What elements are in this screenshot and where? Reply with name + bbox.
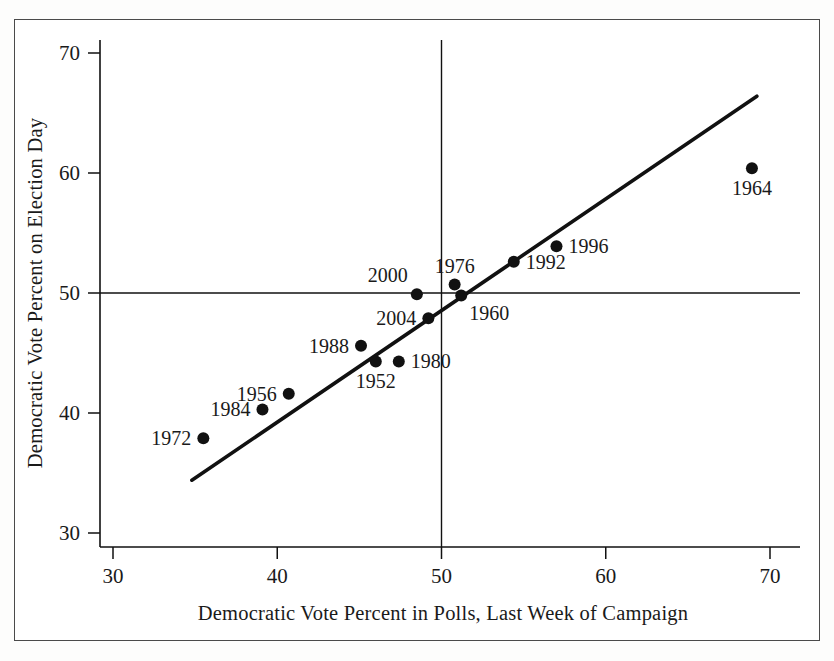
point-label-1976: 1976 [435, 255, 475, 277]
data-point-1952[interactable] [370, 355, 382, 367]
point-labels-group: 1972198419561988195219802000200419761960… [151, 177, 772, 449]
x-tick-label-50: 50 [431, 564, 452, 588]
data-point-1988[interactable] [355, 340, 367, 352]
y-tick-label-30: 30 [59, 521, 80, 545]
x-tick-label-30: 30 [103, 564, 124, 588]
data-point-1980[interactable] [393, 355, 405, 367]
x-tick-label-40: 40 [267, 564, 288, 588]
point-label-1952: 1952 [356, 370, 396, 392]
regression-line [192, 96, 757, 480]
data-point-1972[interactable] [197, 432, 209, 444]
x-tick-label-60: 60 [595, 564, 616, 588]
regression-line-group [192, 96, 757, 480]
data-point-1956[interactable] [283, 388, 295, 400]
data-point-2004[interactable] [422, 312, 434, 324]
point-label-1992: 1992 [526, 251, 566, 273]
scatter-plot: 30405060703040506070 1972198419561988195… [0, 0, 834, 661]
point-label-1996: 1996 [568, 235, 608, 257]
y-tick-label-40: 40 [59, 401, 80, 425]
data-point-1976[interactable] [449, 279, 461, 291]
y-tick-label-60: 60 [59, 161, 80, 185]
point-label-2000: 2000 [368, 264, 408, 286]
tick-labels-group: 30405060703040506070 [59, 41, 781, 588]
figure-canvas: 30405060703040506070 1972198419561988195… [0, 0, 834, 661]
data-point-1992[interactable] [508, 256, 520, 268]
tick-marks-group [88, 53, 770, 559]
data-point-2000[interactable] [411, 288, 423, 300]
data-point-1960[interactable] [455, 289, 467, 301]
data-point-1964[interactable] [746, 162, 758, 174]
point-label-1972: 1972 [151, 427, 191, 449]
data-point-1984[interactable] [256, 403, 268, 415]
point-label-1956: 1956 [237, 383, 277, 405]
x-tick-label-70: 70 [760, 564, 781, 588]
y-axis-title: Democratic Vote Percent on Election Day [24, 117, 47, 468]
point-label-1960: 1960 [469, 302, 509, 324]
point-label-2004: 2004 [376, 307, 416, 329]
y-tick-label-70: 70 [59, 41, 80, 65]
point-label-1964: 1964 [732, 177, 772, 199]
point-label-1988: 1988 [309, 335, 349, 357]
point-label-1980: 1980 [411, 350, 451, 372]
y-tick-label-50: 50 [59, 281, 80, 305]
x-axis-title: Democratic Vote Percent in Polls, Last W… [198, 602, 688, 625]
